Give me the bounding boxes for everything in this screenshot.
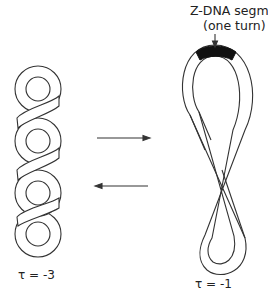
left-tau-label: τ = -3	[18, 268, 55, 282]
annotation-line1: Z-DNA segment	[190, 3, 268, 18]
supercoil-diagram	[0, 0, 268, 291]
right-figure-eight	[182, 45, 252, 275]
arrow-reverse	[95, 184, 148, 189]
right-tau-label: τ = -1	[195, 277, 232, 291]
annotation-line2: (one turn)	[203, 18, 266, 33]
arrow-forward	[97, 136, 150, 141]
